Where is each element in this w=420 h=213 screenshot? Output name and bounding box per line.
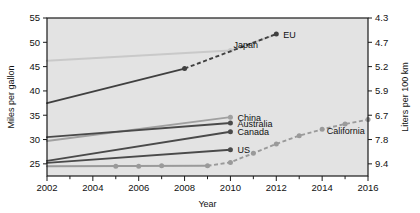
- chart-canvas: 20022004200620082010201220142016 2530354…: [0, 0, 420, 213]
- y2-tick-label: 6.7: [375, 110, 388, 121]
- x-tick-label: 2010: [220, 182, 241, 193]
- x-tick-label: 2002: [36, 182, 57, 193]
- data-point: [320, 127, 325, 132]
- series-label-california: California: [327, 126, 365, 136]
- y-tick-label: 50: [29, 37, 40, 48]
- x-tick-label: 2012: [266, 182, 287, 193]
- y2-tick-label: 7.8: [375, 134, 388, 145]
- data-point: [205, 163, 210, 168]
- data-point: [136, 164, 141, 169]
- y2-tick-label: 4.7: [375, 37, 388, 48]
- data-point: [274, 141, 279, 146]
- data-point: [228, 147, 233, 152]
- x-axis-title: Year: [198, 199, 216, 209]
- y2-tick-label: 5.9: [375, 85, 388, 96]
- x-tick-label: 2004: [82, 182, 103, 193]
- data-point: [182, 66, 187, 71]
- x-tick-label: 2008: [174, 182, 195, 193]
- y2-tick-label: 4.3: [375, 12, 388, 23]
- y-axis-title-right: Liters per 100 km: [400, 62, 410, 132]
- series-label-canada: Canada: [237, 127, 269, 137]
- data-point: [228, 129, 233, 134]
- data-point: [251, 151, 256, 156]
- data-point: [113, 164, 118, 169]
- y2-tick-label: 9.4: [375, 158, 388, 169]
- y-tick-label: 30: [29, 134, 40, 145]
- y2-tick-label: 5.2: [375, 61, 388, 72]
- x-tick-label: 2006: [128, 182, 149, 193]
- data-point: [228, 121, 233, 126]
- y-tick-label: 35: [29, 110, 40, 121]
- y-tick-label: 55: [29, 12, 40, 23]
- data-point: [297, 133, 302, 138]
- data-point: [228, 115, 233, 120]
- series-label-us: US: [237, 145, 250, 155]
- data-point: [274, 32, 279, 37]
- y-axis-title-left: Miles per gallon: [6, 65, 16, 128]
- y-tick-label: 40: [29, 85, 40, 96]
- series-label-eu: EU: [283, 30, 296, 40]
- series-label-japan: Japan: [233, 40, 258, 50]
- x-tick-label: 2014: [312, 182, 333, 193]
- y-tick-label: 45: [29, 61, 40, 72]
- data-point: [159, 163, 164, 168]
- y-tick-label: 25: [29, 158, 40, 169]
- fuel-economy-chart: 20022004200620082010201220142016 2530354…: [0, 0, 420, 213]
- x-tick-label: 2016: [357, 182, 378, 193]
- data-point: [228, 160, 233, 165]
